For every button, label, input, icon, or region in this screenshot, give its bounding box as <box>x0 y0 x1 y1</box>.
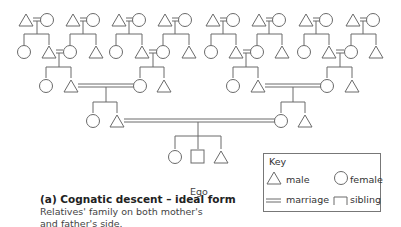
female-symbol <box>40 80 53 93</box>
male-symbol <box>64 80 78 92</box>
generation-4 <box>87 115 313 150</box>
key-label-marriage: marriage <box>286 194 329 205</box>
key-box: Key male female marriage sibling <box>263 153 381 212</box>
male-symbol <box>346 14 360 26</box>
male-symbol <box>135 46 149 58</box>
male-symbol <box>182 46 196 58</box>
male-symbol <box>275 46 289 58</box>
male-symbol <box>158 14 172 26</box>
female-symbol <box>134 80 147 93</box>
female-symbol <box>179 14 192 27</box>
female-symbol <box>87 115 100 128</box>
key-label-female: female <box>350 174 383 185</box>
male-symbol <box>345 80 359 92</box>
key-label-male: male <box>286 174 310 185</box>
male-symbol <box>251 80 265 92</box>
caption-title: (a) Cognatic descent – ideal form <box>40 193 240 206</box>
generation-2 <box>18 46 384 79</box>
female-symbol <box>321 80 334 93</box>
male-symbol <box>112 14 126 26</box>
female-symbol <box>251 46 264 59</box>
female-symbol <box>367 14 380 27</box>
male-symbol <box>322 46 336 58</box>
male-symbol <box>89 46 103 58</box>
female-symbol <box>345 46 358 59</box>
ego-symbol <box>191 150 204 163</box>
generation-3 <box>40 80 360 114</box>
brother-symbol <box>214 151 228 163</box>
male-symbol <box>369 46 383 58</box>
caption-desc-line1: Relatives' family on both mother's <box>40 206 240 218</box>
male-symbol <box>206 14 220 26</box>
male-symbol <box>298 115 312 127</box>
female-symbol <box>133 14 146 27</box>
female-symbol <box>227 80 240 93</box>
female-symbol <box>298 46 311 59</box>
female-symbol <box>273 14 286 27</box>
caption-desc-line2: and father's side. <box>40 218 240 227</box>
female-symbol <box>110 46 123 59</box>
male-symbol <box>66 14 80 26</box>
female-symbol <box>41 14 54 27</box>
key-label-sibling: sibling <box>350 194 381 205</box>
male-symbol <box>299 14 313 26</box>
female-symbol <box>320 14 333 27</box>
caption: (a) Cognatic descent – ideal form Relati… <box>40 183 240 227</box>
generation-5 <box>169 150 229 164</box>
female-symbol <box>18 46 31 59</box>
female-symbol <box>205 46 218 59</box>
female-symbol <box>275 115 288 128</box>
male-symbol <box>229 46 243 58</box>
sister-symbol <box>169 151 182 164</box>
female-symbol <box>157 46 170 59</box>
generation-1 <box>19 14 380 46</box>
male-symbol <box>19 14 33 26</box>
female-symbol <box>227 14 240 27</box>
male-symbol <box>110 115 124 127</box>
female-symbol <box>87 14 100 27</box>
male-symbol <box>157 80 171 92</box>
female-symbol <box>64 46 77 59</box>
key-title: Key <box>269 156 286 167</box>
male-symbol <box>252 14 266 26</box>
male-symbol <box>42 46 56 58</box>
